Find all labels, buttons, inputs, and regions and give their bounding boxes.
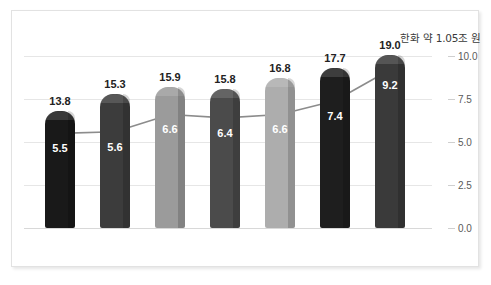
bar-value-label: 15.8 bbox=[197, 73, 253, 85]
bar-value-label: 15.9 bbox=[142, 71, 198, 83]
bar-value-label: 13.8 bbox=[32, 95, 88, 107]
line-value-label: 6.6 bbox=[150, 123, 190, 135]
bar-side-shading bbox=[123, 94, 130, 228]
bar-2019[interactable] bbox=[265, 78, 295, 228]
line-value-label: 6.6 bbox=[260, 123, 300, 135]
y-axis-tick-mark bbox=[448, 142, 455, 143]
y-axis-tick-mark bbox=[448, 99, 455, 100]
bar-side-shading bbox=[233, 89, 240, 228]
y-axis-tick-label: 7.5 bbox=[458, 94, 472, 105]
y-axis-tick-mark bbox=[448, 228, 455, 229]
bar-value-label: 19.0 bbox=[362, 39, 418, 51]
bar-value-label: 16.8 bbox=[252, 62, 308, 74]
y-axis-tick-mark bbox=[448, 56, 455, 57]
line-value-label: 5.6 bbox=[95, 141, 135, 153]
line-value-label: 9.2 bbox=[370, 79, 410, 91]
y-axis-tick-mark bbox=[448, 185, 455, 186]
bar-side-shading bbox=[343, 68, 350, 228]
plot-area: 0.02.55.07.510.013.815.315.915.816.817.7… bbox=[24, 56, 424, 228]
bar-2016[interactable] bbox=[100, 94, 130, 228]
y-axis-tick-label: 2.5 bbox=[458, 180, 472, 191]
bar-2017[interactable] bbox=[155, 87, 185, 228]
bar-side-shading bbox=[178, 87, 185, 228]
bar-value-label: 15.3 bbox=[87, 78, 143, 90]
bar-2018[interactable] bbox=[210, 89, 240, 228]
bar-2020[interactable] bbox=[320, 68, 350, 228]
bar-side-shading bbox=[68, 111, 75, 228]
bar-value-label: 17.7 bbox=[307, 52, 363, 64]
gridline bbox=[24, 56, 432, 57]
chart-container: 한화 약 1.05조 원 0.02.55.07.510.013.815.315.… bbox=[0, 0, 491, 285]
line-value-label: 5.5 bbox=[40, 142, 80, 154]
bar-side-shading bbox=[288, 78, 295, 228]
bar-2015[interactable] bbox=[45, 111, 75, 228]
y-axis-tick-label: 10.0 bbox=[458, 51, 477, 62]
line-value-label: 6.4 bbox=[205, 127, 245, 139]
gridline bbox=[24, 228, 432, 229]
line-value-label: 7.4 bbox=[315, 110, 355, 122]
y-axis-tick-label: 5.0 bbox=[458, 137, 472, 148]
y-axis-tick-label: 0.0 bbox=[458, 223, 472, 234]
